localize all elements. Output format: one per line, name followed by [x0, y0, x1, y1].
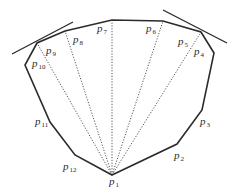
- vertex-label-p1: p1: [109, 176, 119, 189]
- vertex-label-p11: p11: [35, 116, 48, 129]
- vertex-label-p6: p6: [146, 23, 156, 36]
- ray-p1-p8: [65, 31, 112, 175]
- vertex-label-p4: p4: [194, 46, 204, 59]
- vertex-label-p8: p8: [73, 34, 83, 47]
- vertex-label-p5: p5: [178, 36, 188, 49]
- tangent-line-1: [12, 22, 73, 54]
- tangent-line-2: [163, 10, 227, 43]
- vertex-label-p10: p10: [32, 58, 46, 71]
- vertex-label-p3: p3: [200, 116, 210, 129]
- ray-p1-p6: [112, 21, 163, 175]
- vertex-label-p9: p9: [46, 45, 56, 58]
- vertex-label-p12: p12: [63, 161, 77, 174]
- polygon-diagram: [0, 0, 239, 195]
- vertex-label-p2: p2: [174, 150, 184, 163]
- vertex-label-p7: p7: [97, 23, 107, 36]
